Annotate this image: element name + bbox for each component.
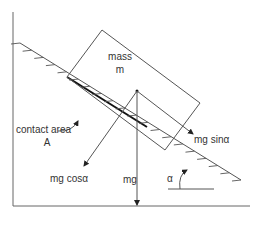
hatch-mark — [58, 72, 67, 73]
hatch-mark — [46, 65, 55, 66]
parallel-component-arrow — [137, 91, 193, 134]
normal-component-label: mg cosα — [50, 173, 88, 184]
hatch-mark — [220, 173, 229, 174]
contact-area-line — [67, 77, 147, 127]
parallel-component-label: mg sinα — [194, 134, 229, 145]
hatch-mark — [185, 151, 194, 152]
contact-area-symbol-label: A — [44, 137, 51, 148]
hatch-mark — [197, 158, 206, 159]
hatch-mark — [151, 130, 160, 131]
angle-label: α — [167, 173, 173, 184]
hatch-mark — [162, 137, 171, 138]
hatch-mark — [34, 57, 43, 58]
hatch-mark — [209, 166, 218, 167]
contact-area-label: contact area — [16, 124, 71, 135]
incline-hatching — [11, 43, 241, 181]
angle-arc — [180, 170, 187, 189]
hatch-mark — [11, 43, 20, 44]
mass-symbol-label: m — [116, 64, 124, 75]
normal-component-arrow — [84, 91, 137, 166]
hatch-mark — [23, 50, 32, 51]
incline-surface — [20, 43, 241, 180]
hatch-mark — [232, 180, 241, 181]
weight-label: mg — [123, 174, 137, 185]
inclined-plane-diagram: mass m contact area A mg cosα mg mg sinα… — [0, 0, 262, 227]
hatch-mark — [174, 144, 183, 145]
mass-label: mass — [108, 51, 132, 62]
